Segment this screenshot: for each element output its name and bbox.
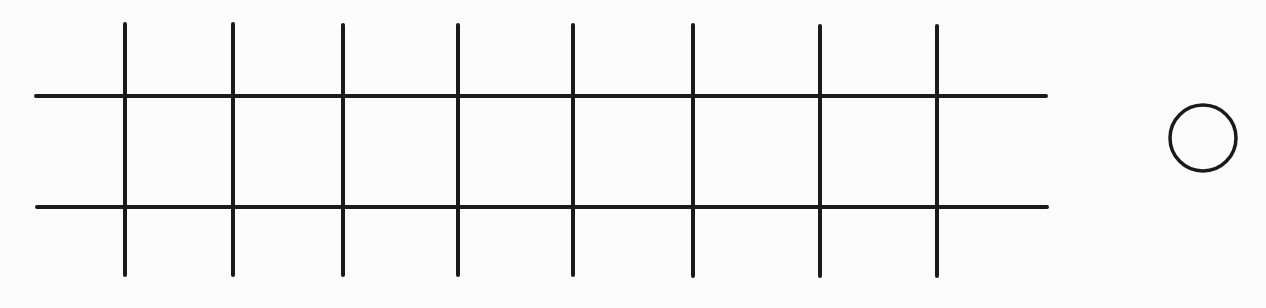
horizontal-lines: [36, 96, 1047, 207]
circle-shape: [1170, 105, 1236, 171]
line-grid-diagram: [0, 0, 1266, 308]
diagram-canvas: [0, 0, 1266, 308]
vertical-lines: [125, 24, 937, 276]
